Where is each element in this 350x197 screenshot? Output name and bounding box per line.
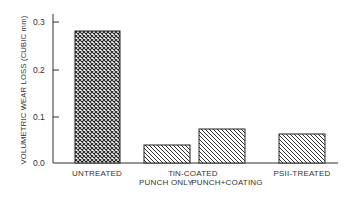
label-psii: PSII-TREATED	[274, 169, 331, 178]
bar-punch-only	[144, 145, 190, 163]
label-punch-coating: PUNCH+COATING	[191, 178, 263, 187]
bar-punch-coating	[199, 129, 245, 163]
label-punch-only: PUNCH ONLY	[139, 178, 193, 187]
y-tick-0.0: 0.0	[33, 158, 45, 168]
label-untreated: UNTREATED	[72, 169, 122, 178]
bar-psii	[279, 134, 325, 163]
y-tick-0.3: 0.3	[33, 17, 45, 27]
label-tin-coated: TiN-COATED	[168, 169, 218, 178]
y-tick-0.1: 0.1	[33, 112, 45, 122]
bar-untreated	[75, 31, 120, 163]
wear-loss-chart: 0.3 0.2 0.1 0.0 VOLUMETRIC WEAR LOSS (CU…	[0, 0, 350, 197]
y-tick-0.2: 0.2	[33, 65, 45, 75]
y-ticks	[53, 22, 59, 117]
y-axis-title: VOLUMETRIC WEAR LOSS (CUBIC mm)	[19, 15, 28, 164]
